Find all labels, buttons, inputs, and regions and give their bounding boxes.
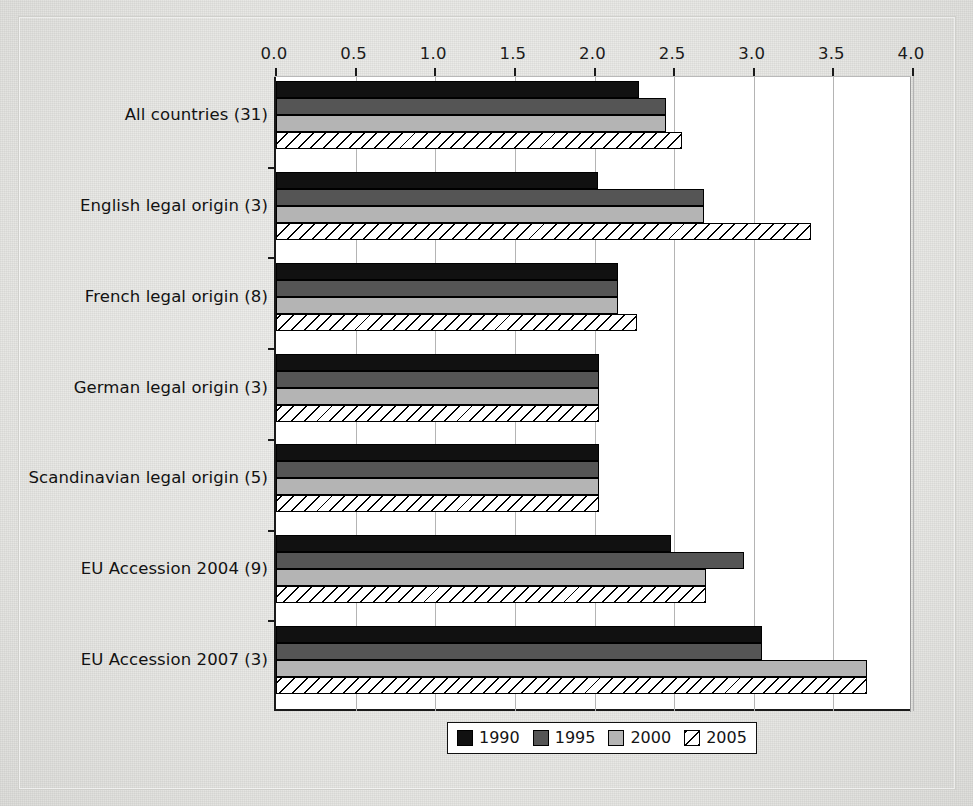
x-axis-tick	[434, 68, 436, 76]
category-label: Scandinavian legal origin (5)	[28, 468, 268, 487]
x-axis-tick	[594, 68, 596, 76]
x-gridline	[754, 76, 755, 711]
x-axis-tick	[753, 68, 755, 76]
legend-swatch-1990	[457, 730, 473, 746]
x-axis-tick-label: 3.0	[722, 44, 782, 63]
bar-1990	[276, 626, 762, 643]
y-axis-tick	[268, 167, 276, 169]
bar-2000	[276, 569, 706, 586]
bar-2005	[276, 405, 599, 422]
y-axis-tick	[268, 620, 276, 622]
bar-2005	[276, 223, 811, 240]
legend-label: 2005	[706, 730, 747, 746]
bar-2000	[276, 115, 666, 132]
legend-item-1995[interactable]: 1995	[533, 730, 596, 746]
bar-1995	[276, 643, 762, 660]
legend-item-2005[interactable]: 2005	[684, 730, 747, 746]
x-axis-tick-label: 1.0	[403, 44, 463, 63]
bar-2000	[276, 478, 599, 495]
legend-swatch-1995	[533, 730, 549, 746]
bar-1990	[276, 535, 671, 552]
x-axis-tick-label: 4.0	[881, 44, 941, 63]
x-gridline	[913, 76, 914, 711]
y-axis-tick	[268, 530, 276, 532]
bar-2000	[276, 660, 867, 677]
bar-2005	[276, 677, 867, 694]
x-axis-tick-label: 2.0	[563, 44, 623, 63]
x-gridline	[833, 76, 834, 711]
bar-1990	[276, 81, 639, 98]
x-axis-tick	[514, 68, 516, 76]
category-label: French legal origin (8)	[85, 287, 268, 306]
x-gridline	[674, 76, 675, 711]
bar-1990	[276, 354, 599, 371]
x-axis-tick-label: 1.5	[483, 44, 543, 63]
plot-area	[274, 76, 911, 711]
bar-1990	[276, 444, 599, 461]
category-label: German legal origin (3)	[74, 378, 268, 397]
x-axis-tick	[832, 68, 834, 76]
x-axis-tick-label: 0.5	[324, 44, 384, 63]
legend-label: 2000	[630, 730, 671, 746]
bar-2000	[276, 297, 618, 314]
legend-item-1990[interactable]: 1990	[457, 730, 520, 746]
x-axis-tick	[355, 68, 357, 76]
x-axis-tick	[673, 68, 675, 76]
legend-item-2000[interactable]: 2000	[608, 730, 671, 746]
bar-1995	[276, 461, 599, 478]
bar-1995	[276, 98, 666, 115]
category-label: EU Accession 2007 (3)	[81, 650, 268, 669]
legend-swatch-2005	[684, 730, 700, 746]
horizontal-bar-chart: All countries (31)English legal origin (…	[0, 0, 973, 806]
y-axis-tick	[268, 257, 276, 259]
x-axis-tick-label: 2.5	[642, 44, 702, 63]
x-axis-tick	[275, 68, 277, 76]
plot-right-border	[910, 76, 911, 712]
category-label: English legal origin (3)	[80, 196, 268, 215]
bar-2000	[276, 388, 599, 405]
plot-top-border	[274, 76, 911, 77]
bar-2005	[276, 586, 706, 603]
x-axis-tick-label: 0.0	[244, 44, 304, 63]
bar-1995	[276, 552, 744, 569]
category-label: All countries (31)	[125, 105, 268, 124]
bar-2005	[276, 132, 682, 149]
bar-2005	[276, 314, 637, 331]
legend-label: 1990	[479, 730, 520, 746]
legend-swatch-2000	[608, 730, 624, 746]
bar-1995	[276, 280, 618, 297]
legend-label: 1995	[555, 730, 596, 746]
bar-2000	[276, 206, 704, 223]
x-axis-tick	[912, 68, 914, 76]
bar-1995	[276, 371, 599, 388]
y-axis-tick	[268, 348, 276, 350]
bar-2005	[276, 495, 599, 512]
y-axis-tick	[268, 439, 276, 441]
bar-1995	[276, 189, 704, 206]
bar-1990	[276, 172, 598, 189]
category-label: EU Accession 2004 (9)	[81, 559, 268, 578]
bar-1990	[276, 263, 618, 280]
category-axis-labels: All countries (31)English legal origin (…	[20, 0, 268, 806]
x-axis-tick-label: 3.5	[801, 44, 861, 63]
chart-legend: 1990199520002005	[447, 722, 757, 754]
